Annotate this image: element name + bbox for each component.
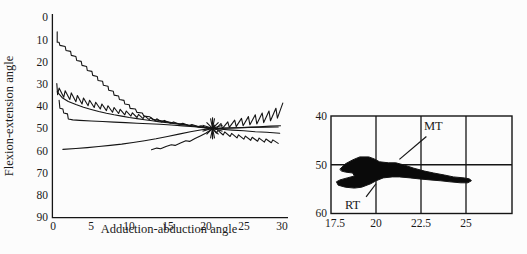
left-y-tick-label: 80: [25, 188, 48, 202]
contact-region: [336, 157, 471, 188]
figure: Flexion-extension angle Adduction-abduct…: [0, 0, 527, 254]
left-x-tick-label: 25: [230, 219, 258, 233]
left-y-tick-label: 0: [25, 10, 48, 24]
left-x-tick-label: 5: [77, 219, 105, 233]
right-y-tick-label: 50: [304, 158, 327, 172]
left-y-tick-label: 10: [25, 33, 48, 47]
left-y-axis-title: Flexion-extension angle: [2, 56, 17, 176]
right-y-tick-label: 40: [304, 109, 327, 123]
left-y-tick-label: 60: [25, 144, 48, 158]
left-x-tick-label: 15: [154, 219, 182, 233]
series-sawtooth-right-up: [213, 103, 283, 129]
series-bottom-short: [152, 129, 213, 150]
right-x-tick-label: 20: [362, 216, 390, 230]
annotation-label-mt: MT: [424, 119, 443, 133]
left-x-tick-label: 10: [115, 219, 143, 233]
left-x-tick-label: 30: [268, 219, 296, 233]
left-x-tick-label: 20: [192, 219, 220, 233]
left-y-tick-label: 20: [25, 55, 48, 69]
left-y-tick-label: 40: [25, 99, 48, 113]
left-y-tick-label: 50: [25, 121, 48, 135]
left-y-tick-label: 30: [25, 77, 48, 91]
series-steep-staircase: [57, 32, 212, 129]
right-x-tick-label: 17.5: [321, 216, 349, 230]
figure-canvas: [0, 0, 527, 254]
series-bottom-long: [63, 127, 278, 149]
left-y-tick-label: 70: [25, 166, 48, 180]
right-x-tick-label: 25: [452, 216, 480, 230]
annotation-label-rt: RT: [345, 198, 360, 212]
left-axes: [52, 14, 288, 218]
annotation-pointer-mt: [399, 136, 426, 159]
annotation-pointer-rt: [366, 184, 376, 197]
left-x-tick-label: 0: [39, 219, 67, 233]
right-x-tick-label: 22.5: [407, 216, 435, 230]
